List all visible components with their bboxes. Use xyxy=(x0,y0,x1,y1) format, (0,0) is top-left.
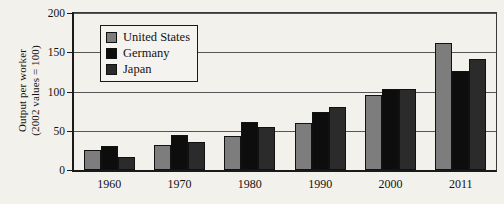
y-axis-tick xyxy=(67,13,74,14)
bar-germany xyxy=(101,146,118,170)
legend-label-united-states: United States xyxy=(123,31,190,44)
bar-group: 1980 xyxy=(224,13,275,170)
bar-germany xyxy=(241,122,258,170)
bar-japan xyxy=(118,157,135,170)
chart-legend: United States Germany Japan xyxy=(100,25,198,82)
bar-united-states xyxy=(365,95,382,170)
legend-swatch-japan xyxy=(106,64,117,75)
x-axis-tick-label: 2011 xyxy=(449,177,473,192)
x-axis-tick-label: 1990 xyxy=(308,177,332,192)
y-axis-tick xyxy=(67,131,74,132)
y-axis-title-line2: (2002 values = 100) xyxy=(28,16,41,166)
bar-germany xyxy=(312,112,329,170)
x-axis-tick-label: 1960 xyxy=(97,177,121,192)
bar-united-states xyxy=(435,43,452,170)
bar-united-states xyxy=(224,136,241,170)
legend-label-germany: Germany xyxy=(123,47,170,60)
y-axis-title-line1: Output per worker xyxy=(16,16,29,166)
bar-japan xyxy=(469,59,486,170)
y-axis-tick xyxy=(67,52,74,53)
bar-united-states xyxy=(84,150,101,170)
legend-item-japan: Japan xyxy=(106,61,190,77)
y-axis-tick xyxy=(67,92,74,93)
bar-japan xyxy=(188,142,205,170)
legend-item-united-states: United States xyxy=(106,29,190,45)
x-axis-tick-label: 1980 xyxy=(238,177,262,192)
bar-chart: Output per worker (2002 values = 100) 05… xyxy=(0,0,504,204)
y-axis-tick-label: 150 xyxy=(48,46,65,58)
bar-japan xyxy=(329,107,346,170)
x-axis-tick-label: 2000 xyxy=(378,177,402,192)
bar-group: 2000 xyxy=(365,13,416,170)
legend-item-germany: Germany xyxy=(106,45,190,61)
legend-swatch-germany xyxy=(106,48,117,59)
bar-japan xyxy=(258,127,275,170)
y-axis-tick-label: 100 xyxy=(48,86,65,98)
y-axis-tick xyxy=(67,170,74,171)
bar-group: 2011 xyxy=(435,13,486,170)
bar-united-states xyxy=(154,145,171,170)
legend-swatch-united-states xyxy=(106,32,117,43)
bar-group: 1990 xyxy=(295,13,346,170)
bar-united-states xyxy=(295,123,312,170)
y-axis-title: Output per worker (2002 values = 100) xyxy=(16,16,41,166)
legend-label-japan: Japan xyxy=(123,63,151,76)
y-axis-tick-label: 50 xyxy=(54,125,66,137)
bar-germany xyxy=(171,135,188,170)
bar-japan xyxy=(399,89,416,170)
bar-germany xyxy=(382,89,399,170)
x-axis-tick-label: 1970 xyxy=(167,177,191,192)
bar-germany xyxy=(452,71,469,170)
y-axis-tick-label: 200 xyxy=(48,7,65,19)
y-axis-tick-label: 0 xyxy=(59,164,65,176)
